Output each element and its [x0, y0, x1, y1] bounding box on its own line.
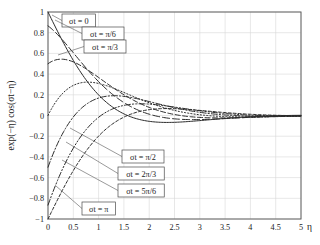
annotation-leader-line [62, 160, 118, 191]
x-tick-label: 5 [299, 223, 303, 232]
y-tick-label: −0.6 [29, 174, 44, 183]
x-tick-label: 2.5 [169, 223, 179, 232]
y-tick-label: −0.2 [29, 132, 44, 141]
x-axis-title: η [307, 222, 312, 232]
x-tick-labels: 00.511.522.533.544.55 [46, 223, 303, 232]
y-tick-label: −0.4 [29, 153, 44, 162]
annotation-leader-line [66, 142, 118, 174]
y-axis-title: exp(−η) cos(σt−η) [6, 81, 17, 151]
x-tick-label: 2 [147, 223, 151, 232]
annotation-label: σt = 0 [69, 17, 89, 26]
x-tick-label: 3.5 [220, 223, 230, 232]
annotations: σt = 0σt = π/6σt = π/3σt = π/2σt = 2π/3σ… [52, 14, 164, 215]
annotation-label: σt = π/3 [92, 43, 118, 52]
y-tick-label: −0.8 [29, 194, 44, 203]
y-tick-label: 1 [40, 8, 44, 17]
x-tick-label: 1 [97, 223, 101, 232]
y-tick-label: 0.8 [34, 29, 44, 38]
annotation-leader-line [56, 186, 82, 209]
annotation-leader-line [58, 47, 84, 56]
annotation-label: σt = 2π/3 [126, 170, 156, 179]
annotation-label: σt = 5π/6 [126, 187, 156, 196]
y-axis-title-text: exp(−η) cos(σt−η) [6, 81, 17, 151]
y-tick-label: −1 [35, 215, 44, 224]
y-tick-label: 0.6 [34, 49, 44, 58]
chart-figure: 00.511.522.533.544.55 10.80.60.40.20−0.2… [0, 0, 320, 245]
x-tick-label: 4 [248, 223, 252, 232]
y-tick-label: 0.4 [34, 70, 44, 79]
x-tick-label: 4.5 [271, 223, 281, 232]
x-tick-label: 0 [46, 223, 50, 232]
x-tick-label: 0.5 [68, 223, 78, 232]
y-tick-label: 0 [40, 112, 44, 121]
annotation-leader-line [70, 128, 122, 157]
chart-svg: 00.511.522.533.544.55 10.80.60.40.20−0.2… [0, 0, 320, 245]
annotation-label: σt = π/6 [90, 30, 116, 39]
annotation-leader-line [52, 15, 62, 21]
x-tick-label: 3 [198, 223, 202, 232]
y-tick-labels: 10.80.60.40.20−0.2−0.4−0.6−0.8−1 [29, 8, 44, 224]
x-tick-label: 1.5 [119, 223, 129, 232]
annotation-label: σt = π [89, 205, 109, 214]
annotation-label: σt = π/2 [130, 153, 156, 162]
y-tick-label: 0.2 [34, 91, 44, 100]
